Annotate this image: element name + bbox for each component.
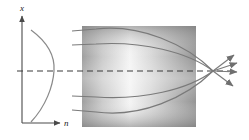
diagram-canvas: x n — [0, 0, 249, 140]
horizontal-axis-label: n — [64, 118, 69, 128]
arrow-out-4 — [213, 71, 233, 86]
vertical-axis-label: x — [19, 3, 24, 13]
outgoing-ray-group — [213, 55, 237, 86]
parabolic-index-profile-curve — [31, 30, 54, 122]
grin-lens-ray-diagram: x n — [0, 0, 249, 140]
arrow-out-1 — [213, 55, 234, 71]
arrow-out-3 — [213, 71, 237, 72]
arrow-out-2 — [213, 63, 237, 71]
